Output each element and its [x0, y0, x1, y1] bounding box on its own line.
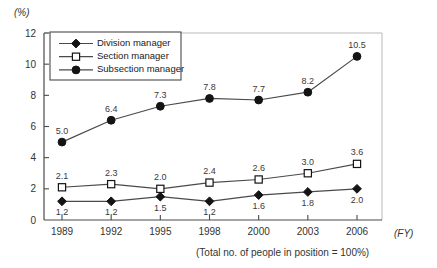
data-point-label: 1.2 — [203, 207, 216, 217]
marker-filled-diamond — [58, 197, 67, 206]
data-point-label: 1.2 — [105, 207, 118, 217]
legend-label: Section manager — [97, 50, 169, 61]
data-point-label: 7.3 — [154, 90, 167, 100]
data-point-label: 1.6 — [252, 201, 265, 211]
legend-label: Division manager — [97, 37, 170, 48]
x-tick-label: 1989 — [51, 226, 74, 237]
y-tick-label: 2 — [30, 183, 36, 194]
data-point-label: 2.1 — [56, 171, 69, 181]
x-tick-label: 2000 — [248, 226, 271, 237]
x-tick-label: 2003 — [297, 226, 320, 237]
marker-filled-diamond — [107, 197, 116, 206]
data-point-label: 2.3 — [105, 168, 118, 178]
data-point-label: 1.8 — [302, 198, 315, 208]
marker-open-square — [304, 170, 311, 177]
data-point-label: 10.5 — [348, 40, 366, 50]
y-tick-label: 6 — [30, 121, 36, 132]
legend-label: Subsection manager — [97, 63, 184, 74]
marker-open-square — [108, 181, 115, 188]
data-point-label: 8.2 — [302, 76, 315, 86]
marker-filled-diamond — [205, 197, 214, 206]
marker-filled-diamond — [303, 188, 312, 197]
data-point-label: 7.7 — [252, 84, 265, 94]
x-tick-label: 1995 — [149, 226, 172, 237]
marker-open-square — [206, 179, 213, 186]
marker-open-square — [353, 160, 360, 167]
marker-filled-diamond — [353, 184, 362, 193]
marker-open-square — [58, 184, 65, 191]
marker-open-square — [157, 185, 164, 192]
data-point-label: 1.5 — [154, 203, 167, 213]
legend-group: Division managerSection managerSubsectio… — [50, 32, 184, 80]
data-point-label: 2.4 — [203, 166, 216, 176]
data-point-label: 3.6 — [351, 147, 364, 157]
data-point-label: 2.0 — [154, 172, 167, 182]
y-tick-label: 4 — [30, 152, 36, 163]
marker-filled-diamond — [254, 191, 263, 200]
data-point-label: 6.4 — [105, 104, 118, 114]
y-tick-label: 0 — [30, 215, 36, 226]
marker-filled-circle — [58, 138, 66, 146]
marker-open-square — [255, 176, 262, 183]
data-point-label: 3.0 — [302, 157, 315, 167]
marker-open-square — [72, 53, 79, 60]
line-chart-svg: 024681012 1989199219951998200020032006 1… — [0, 0, 437, 268]
marker-filled-circle — [107, 116, 115, 124]
marker-filled-circle — [304, 88, 312, 96]
y-tick-label: 10 — [25, 59, 37, 70]
x-tick-label: 1992 — [100, 226, 123, 237]
marker-filled-circle — [156, 102, 164, 110]
y-tick-label: 8 — [30, 90, 36, 101]
marker-filled-circle — [72, 66, 80, 74]
series-section-manager: 2.12.32.02.42.63.03.6 — [56, 147, 364, 192]
marker-filled-diamond — [156, 192, 165, 201]
data-point-label: 1.2 — [56, 207, 69, 217]
data-point-label: 5.0 — [56, 126, 69, 136]
x-axis-group: 1989199219951998200020032006 — [44, 215, 382, 237]
data-point-label: 2.0 — [351, 195, 364, 205]
chart-container: (%) (FY) (Total no. of people in positio… — [0, 0, 437, 268]
x-tick-label: 2006 — [346, 226, 369, 237]
x-tick-label: 1998 — [198, 226, 221, 237]
marker-filled-circle — [255, 96, 263, 104]
y-tick-label: 12 — [25, 28, 37, 39]
data-point-label: 7.8 — [203, 82, 216, 92]
marker-filled-circle — [353, 52, 361, 60]
data-point-label: 2.6 — [252, 163, 265, 173]
marker-filled-circle — [206, 95, 214, 103]
series-division-manager: 1.21.21.51.21.61.82.0 — [56, 184, 364, 217]
